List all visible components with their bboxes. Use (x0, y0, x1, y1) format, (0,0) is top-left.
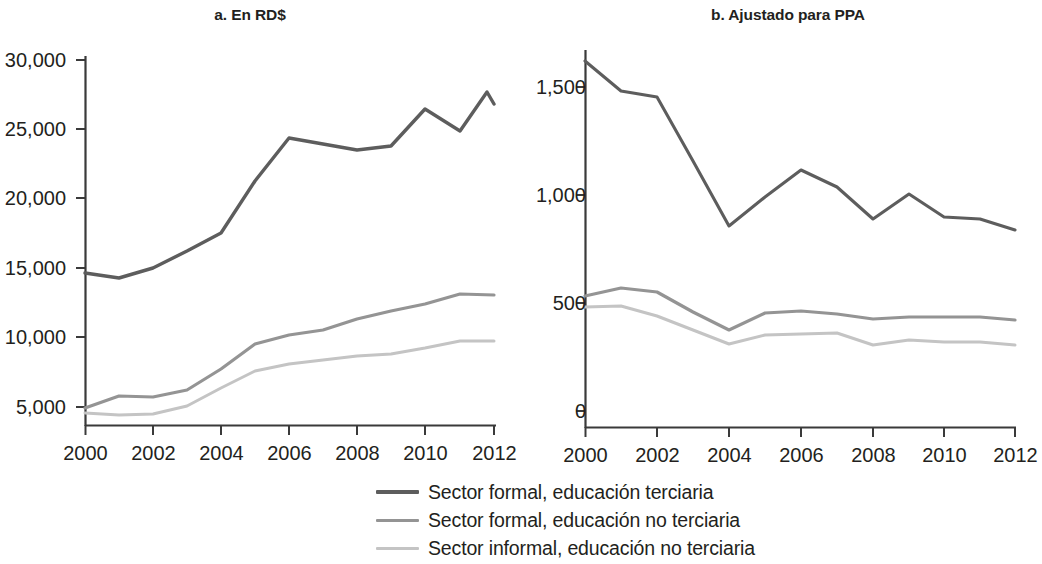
panel-b-svg (515, 0, 1035, 480)
panel-b-ytick-0: 0 (486, 401, 586, 421)
panel-a-ytick-25000: 25,000 (0, 119, 66, 139)
panel-b-ytick-1500: 1,500 (486, 77, 586, 97)
panel-a-svg (0, 0, 520, 480)
panel-a-series-informal-no-terciaria (85, 341, 494, 415)
legend-label-1: Sector formal, educación no terciaria (428, 509, 740, 532)
panel-b-axis-lines (585, 50, 1016, 428)
panel-b-plot-area: 1,500 1,000 500 0 2000 2002 2004 2006 20… (515, 0, 1035, 480)
legend-label-2: Sector informal, educación no terciaria (428, 537, 755, 560)
panel-b-series-formal-no-terciaria (585, 288, 1015, 330)
legend-line-swatch-icon-0 (376, 490, 419, 494)
panel-a-plot-area: 30,000 25,000 20,000 15,000 10,000 5,000… (0, 0, 520, 480)
chart-legend: Sector formal, educación terciaria Secto… (0, 478, 1035, 564)
chart-panel-a: a. En RD$ (0, 0, 520, 480)
panel-a-ytick-30000: 30,000 (0, 50, 66, 70)
panel-a-ytick-5000: 5,000 (0, 397, 66, 417)
panel-b-ytick-1000: 1,000 (486, 185, 586, 205)
legend-item-informal-no-terciaria: Sector informal, educación no terciaria (0, 534, 1035, 562)
panel-b-ytick-500: 500 (486, 293, 586, 313)
panel-a-series-formal-terciaria (85, 92, 494, 278)
panel-a-ytick-20000: 20,000 (0, 188, 66, 208)
panel-a-series-formal-no-terciaria (85, 294, 494, 408)
legend-line-swatch-icon-1 (376, 519, 419, 522)
panel-a-ytick-10000: 10,000 (0, 327, 66, 347)
panel-a-ytick-15000: 15,000 (0, 258, 66, 278)
panel-b-xtick-2012: 2012 (965, 445, 1042, 465)
legend-label-0: Sector formal, educación terciaria (428, 481, 713, 504)
legend-line-swatch-icon-2 (376, 547, 419, 550)
chart-panel-b: b. Ajustado para PPA (515, 0, 1035, 480)
legend-item-formal-no-terciaria: Sector formal, educación no terciaria (0, 506, 1035, 534)
panel-a-axis-lines (85, 56, 496, 426)
legend-item-formal-terciaria: Sector formal, educación terciaria (0, 478, 1035, 506)
panel-b-series-formal-terciaria (585, 61, 1015, 230)
